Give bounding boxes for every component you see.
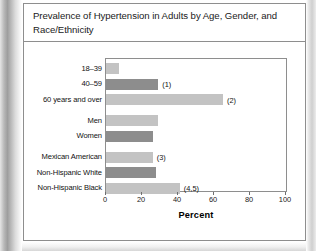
x-axis-tick-label: 100 [279,195,291,204]
page-right-edge-shadow [306,0,316,251]
bar-footnote-marker: (3) [153,153,166,162]
y-axis-tick-label: Men [24,116,102,125]
bar-row [106,63,286,74]
y-axis-tick-label: 18–39 [24,64,102,73]
scanned-page: Prevalence of Hypertension in Adults by … [0,0,316,251]
bar-row: (1) [106,79,286,90]
y-axis-tick-label: Women [24,131,102,140]
y-axis-tick-label: Non-Hispanic White [24,168,102,177]
bar [106,131,153,142]
x-axis-tick-label: 0 [103,195,107,204]
bar [106,79,158,90]
bar-row [106,167,286,178]
x-axis-tick-label: 80 [245,195,253,204]
figure-title: Prevalence of Hypertension in Adults by … [24,4,305,42]
bar-footnote-marker: (2) [223,95,236,104]
x-axis-tick-label: 40 [173,195,181,204]
y-axis-tick-label: Mexican American [24,152,102,161]
bar [106,152,153,163]
bar-row [106,131,286,142]
bar [106,167,156,178]
bar [106,94,223,105]
chart-region: 18–3940–5960 years and overMenWomenMexic… [24,42,305,240]
bar [106,63,119,74]
y-axis-tick-label: 60 years and over [24,95,102,104]
bar [106,115,158,126]
y-axis-category-labels: 18–3940–5960 years and overMenWomenMexic… [24,58,102,190]
page-bottom-edge-shadow [22,242,306,251]
page-left-edge-shadow [0,0,22,251]
plot-area: (1)(2)(3)(4,5) [105,58,287,192]
bar-row: (2) [106,94,286,105]
x-axis-tick-label: 60 [209,195,217,204]
figure-box: Prevalence of Hypertension in Adults by … [23,3,306,241]
bar-row: (3) [106,152,286,163]
x-axis-tick-label: 20 [137,195,145,204]
bar-footnote-marker: (1) [158,80,171,89]
y-axis-tick-label: 40–59 [24,79,102,88]
x-axis-title: Percent [105,210,287,220]
bar-row [106,115,286,126]
x-axis: 020406080100 [105,192,287,212]
y-axis-tick-label: Non-Hispanic Black [24,183,102,192]
